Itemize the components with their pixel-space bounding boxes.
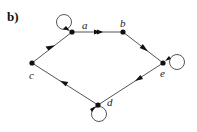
edge-b-e xyxy=(123,32,163,63)
node-a xyxy=(69,29,74,34)
edge-d-c xyxy=(32,63,98,105)
edge-c-a xyxy=(32,32,72,63)
node-d xyxy=(95,102,100,107)
node-label-a: a xyxy=(82,19,88,31)
self-loop-e xyxy=(165,55,185,70)
node-label-e: e xyxy=(160,67,165,79)
node-label-c: c xyxy=(29,69,34,81)
node-label-b: b xyxy=(120,17,126,29)
directed-graph: a b e d c xyxy=(0,0,197,132)
node-b xyxy=(120,29,125,34)
edge-a-b xyxy=(72,30,123,35)
node-label-d: d xyxy=(107,96,113,108)
node-c xyxy=(29,60,34,65)
node-e xyxy=(160,60,165,65)
self-loop-d xyxy=(90,106,107,122)
self-loop-a xyxy=(57,15,72,32)
